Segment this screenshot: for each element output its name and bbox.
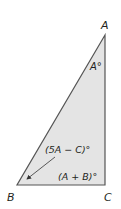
angle-label-a: A° [89,61,102,72]
triangle-diagram: A B C A° (5A − C)° (A + B)° [0,0,121,209]
triangle-abc [17,35,105,185]
angle-label-b: (5A − C)° [45,144,90,155]
vertex-label-c: C [104,191,112,204]
angle-label-c: (A + B)° [58,171,97,182]
vertex-label-b: B [7,191,15,204]
vertex-label-a: A [100,19,109,32]
